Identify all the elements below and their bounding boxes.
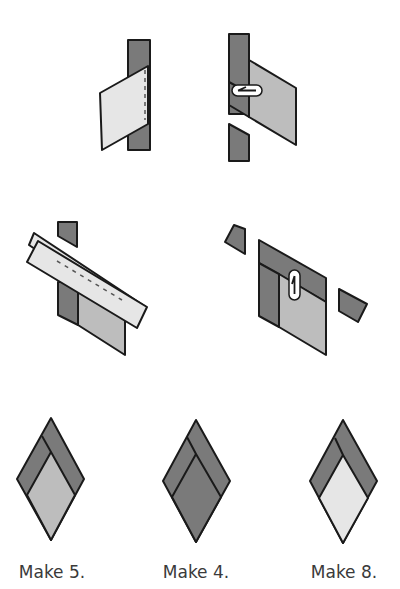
- quilt-diagram: [0, 0, 400, 589]
- dark-piece-left: [225, 225, 245, 254]
- step1-diagram: [100, 40, 150, 150]
- medium-parallelogram: [249, 60, 296, 145]
- caption-make-4: Make 4.: [163, 562, 229, 582]
- step2-diagram: [229, 34, 296, 161]
- caption-make-5: Make 5.: [19, 562, 85, 582]
- step3-diagram: [27, 222, 147, 355]
- step4-diagram: [225, 225, 367, 355]
- result-unit-make-4: [163, 420, 230, 542]
- dark-piece-right: [339, 289, 367, 322]
- result-unit-make-5: [17, 418, 84, 540]
- result-unit-make-8: [310, 420, 377, 543]
- dark-left-column: [259, 263, 279, 327]
- dark-triangle: [58, 222, 77, 247]
- trimmed-dark-piece: [229, 124, 249, 161]
- caption-make-8: Make 8.: [311, 562, 377, 582]
